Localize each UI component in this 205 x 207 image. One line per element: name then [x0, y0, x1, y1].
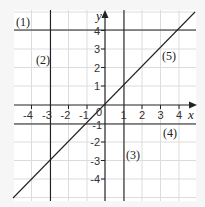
coordinate-plane: -4 -3 -2 -1 1 2 3 4 0 4 3 2 1 -1 -2 -3 -…: [0, 0, 205, 207]
origin-label: 0: [96, 106, 102, 118]
y-axis-label: y: [94, 8, 102, 23]
x-tick: 1: [120, 109, 126, 121]
x-tick: 4: [176, 109, 182, 121]
x-tick: 3: [157, 109, 163, 121]
x-tick: -1: [79, 109, 89, 121]
line-2-label: (2): [36, 53, 50, 67]
x-tick: -2: [61, 109, 71, 121]
x-axis-label: x: [187, 107, 194, 122]
x-tick: -4: [23, 109, 33, 121]
y-tick: -4: [90, 173, 100, 185]
y-tick: 2: [94, 62, 100, 74]
line-1-label: (1): [16, 15, 30, 29]
line-5-label: (5): [162, 49, 176, 63]
x-tick: 2: [139, 109, 145, 121]
y-tick: 4: [94, 25, 100, 37]
y-tick: 3: [94, 43, 100, 55]
y-tick: 1: [94, 80, 100, 92]
y-tick: -2: [90, 136, 100, 148]
line-3-label: (3): [126, 148, 140, 162]
y-tick: -3: [90, 155, 100, 167]
line-4-label: (4): [163, 126, 177, 140]
y-tick: -1: [92, 119, 102, 131]
x-tick: -3: [42, 109, 52, 121]
